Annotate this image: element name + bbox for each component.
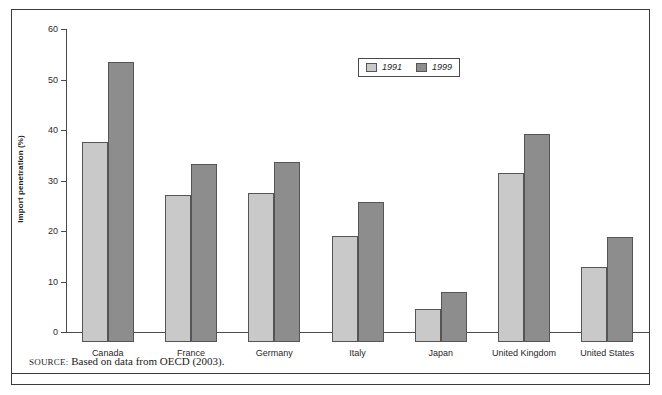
figure-frame: Import penetration (%) 0102030405060 Can… <box>11 9 650 385</box>
y-tick-mark <box>61 130 66 131</box>
y-axis-title: Import penetration (%) <box>16 135 25 223</box>
legend-entry: 1991 <box>366 63 402 72</box>
x-tick-label: Germany <box>256 348 293 358</box>
bar-1999 <box>108 62 134 342</box>
bar-group: Italy <box>332 39 384 342</box>
bar-1999 <box>524 134 550 342</box>
source-note: SOURCE: Based on data from OECD (2003). <box>29 355 225 367</box>
y-tick-mark <box>61 181 66 182</box>
legend-label: 1991 <box>382 63 402 72</box>
x-tick-label: United Kingdom <box>492 348 556 358</box>
bar-1991 <box>581 267 607 342</box>
bar-1991 <box>82 142 108 342</box>
plot-area: Import penetration (%) 0102030405060 Can… <box>66 29 649 343</box>
legend-label: 1999 <box>432 63 452 72</box>
y-tick-label: 50 <box>48 75 58 84</box>
y-tick-mark <box>61 80 66 81</box>
bar-group: United States <box>581 39 633 342</box>
bar-group: Japan <box>415 39 467 342</box>
legend-entry: 1999 <box>416 63 452 72</box>
bar-group: Germany <box>248 39 300 342</box>
bar-group: Canada <box>82 39 134 342</box>
y-axis-line <box>66 29 67 333</box>
bar-1991 <box>498 173 524 342</box>
y-tick-label: 10 <box>48 277 58 286</box>
x-tick-label: United States <box>580 348 634 358</box>
bar-1991 <box>165 195 191 342</box>
y-tick-label: 0 <box>53 328 58 337</box>
y-tick-label: 60 <box>48 25 58 34</box>
x-tick-label: Italy <box>349 348 366 358</box>
y-tick-mark <box>61 282 66 283</box>
source-divider <box>12 373 649 374</box>
bar-1999 <box>191 164 217 342</box>
bar-group: United Kingdom <box>498 39 550 342</box>
source-text: Based on data from OECD (2003). <box>71 355 224 367</box>
bar-group: France <box>165 39 217 342</box>
bar-1999 <box>441 292 467 343</box>
bar-1999 <box>358 202 384 342</box>
y-tick-mark <box>61 332 66 333</box>
bar-1991 <box>248 193 274 342</box>
y-tick-mark <box>61 231 66 232</box>
y-tick-mark <box>61 29 66 30</box>
y-tick-label: 30 <box>48 176 58 185</box>
bar-1999 <box>274 162 300 342</box>
y-tick-label: 40 <box>48 126 58 135</box>
source-label: SOURCE: <box>29 357 68 367</box>
chart-legend: 19911999 <box>358 58 460 77</box>
legend-swatch-1999 <box>416 63 427 72</box>
bar-1999 <box>607 237 633 342</box>
y-tick-label: 20 <box>48 227 58 236</box>
bar-1991 <box>332 236 358 342</box>
bar-1991 <box>415 309 441 342</box>
legend-swatch-1991 <box>366 63 377 72</box>
x-tick-label: Japan <box>429 348 454 358</box>
